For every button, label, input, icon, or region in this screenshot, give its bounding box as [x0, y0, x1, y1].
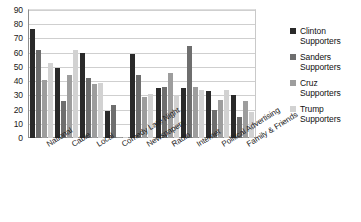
bar [92, 84, 97, 138]
bar [48, 63, 53, 138]
bar-group [54, 10, 79, 138]
legend-item[interactable]: Sanders Supporters [290, 52, 360, 72]
bar [42, 80, 47, 138]
legend-swatch-icon [290, 28, 296, 34]
y-tick-label: 40 [14, 77, 23, 86]
bar-chart: 0102030405060708090 NationalCableLocalCo… [0, 0, 361, 222]
bar-group [205, 10, 230, 138]
y-tick-label: 70 [14, 34, 23, 43]
bar [224, 90, 229, 138]
legend-swatch-icon [290, 106, 296, 112]
y-tick-label: 20 [14, 105, 23, 114]
bar [117, 137, 122, 138]
y-tick-label: 80 [14, 20, 23, 29]
legend-label: Cruz Supporters [300, 78, 360, 98]
legend-swatch-icon [290, 54, 296, 60]
legend-label: Sanders Supporters [300, 52, 360, 72]
y-tick-label: 0 [18, 134, 23, 143]
legend-item[interactable]: Cruz Supporters [290, 78, 360, 98]
bar [187, 46, 192, 138]
bar [36, 50, 41, 138]
bar [98, 83, 103, 138]
bar [55, 68, 60, 138]
bar [193, 87, 198, 138]
y-tick-label: 50 [14, 63, 23, 72]
bar-group [29, 10, 54, 138]
chart-legend: Clinton SupportersSanders SupportersCruz… [290, 26, 360, 130]
y-tick-label: 30 [14, 91, 23, 100]
legend-label: Clinton Supporters [300, 26, 360, 46]
y-axis: 0102030405060708090 [0, 9, 26, 139]
bar [130, 54, 135, 138]
bar-group [79, 10, 104, 138]
bars-layer [29, 10, 255, 138]
bar-group [230, 10, 255, 138]
y-tick-label: 10 [14, 120, 23, 129]
bar-group [129, 10, 154, 138]
legend-label: Trump Supporters [300, 104, 360, 124]
bar-group [104, 10, 129, 138]
bar [199, 90, 204, 138]
bar [73, 50, 78, 138]
bar-group [180, 10, 205, 138]
bar [30, 29, 35, 139]
bar [80, 53, 85, 138]
legend-item[interactable]: Clinton Supporters [290, 26, 360, 46]
x-axis: NationalCableLocalComedy Late NightNewsp… [29, 139, 255, 219]
y-tick-label: 60 [14, 48, 23, 57]
legend-item[interactable]: Trump Supporters [290, 104, 360, 124]
legend-swatch-icon [290, 80, 296, 86]
y-tick-label: 90 [14, 6, 23, 15]
